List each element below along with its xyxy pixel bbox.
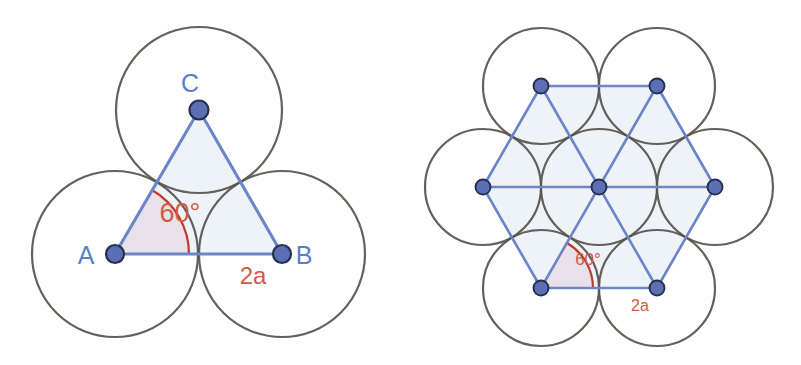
- lattice-dot-center: [592, 180, 607, 195]
- lattice-dot-top-left: [534, 79, 549, 94]
- lattice-dot-bottom-left: [534, 281, 549, 296]
- lattice-dot-bottom-right: [650, 281, 665, 296]
- right-figure: 60° 2a: [0, 0, 801, 365]
- lattice-dot-left: [476, 180, 491, 195]
- figure-canvas: A B C 60° 2a: [0, 0, 801, 365]
- right-side-label: 2a: [631, 297, 649, 314]
- right-angle-label: 60°: [575, 250, 601, 269]
- lattice-dot-right: [708, 180, 723, 195]
- lattice-dot-top-right: [650, 79, 665, 94]
